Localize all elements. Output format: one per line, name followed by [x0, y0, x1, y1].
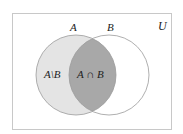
a-minus-b-label: A\B — [43, 68, 61, 80]
venn-diagram: U A B A\B A ∩ B — [0, 0, 183, 134]
set-b-label: B — [107, 21, 114, 33]
set-a-label: A — [69, 21, 77, 33]
universe-label: U — [158, 19, 168, 33]
a-intersect-b-label: A ∩ B — [76, 68, 104, 80]
